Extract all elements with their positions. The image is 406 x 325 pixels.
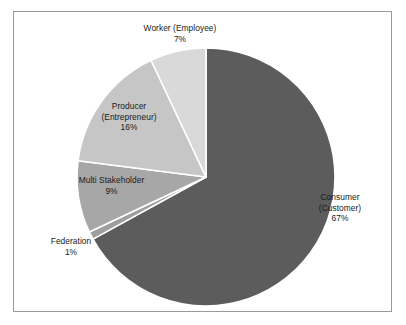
- pie-label-worker-name: Worker (Employee): [115, 23, 245, 34]
- pie-label-multi-stakeholder: Multi Stakeholder 9%: [54, 175, 169, 196]
- pie-chart-svg: [14, 12, 393, 313]
- pie-label-producer: Producer (Entrepreneur) 16%: [74, 101, 184, 133]
- pie-label-federation-percent: 1%: [26, 247, 116, 258]
- pie-label-producer-percent: 16%: [74, 122, 184, 133]
- pie-label-producer-name: Producer: [74, 101, 184, 112]
- pie-label-worker-percent: 7%: [115, 34, 245, 45]
- chart-frame: Worker (Employee) 7% Producer (Entrepren…: [13, 11, 392, 312]
- pie-label-consumer-name-alt: (Customer): [290, 203, 390, 214]
- pie-label-producer-name-alt: (Entrepreneur): [74, 112, 184, 123]
- pie-label-multi-stakeholder-name: Multi Stakeholder: [54, 175, 169, 186]
- pie-label-worker: Worker (Employee) 7%: [115, 23, 245, 44]
- pie-label-consumer-name: Consumer: [290, 192, 390, 203]
- pie-label-consumer: Consumer (Customer) 67%: [290, 192, 390, 224]
- clipped-top-text-row: [0, 0, 406, 7]
- pie-label-multi-stakeholder-percent: 9%: [54, 186, 169, 197]
- pie-label-federation: Federation 1%: [26, 236, 116, 257]
- pie-chart-plot-area: Worker (Employee) 7% Producer (Entrepren…: [14, 12, 393, 313]
- pie-label-federation-name: Federation: [26, 236, 116, 247]
- pie-label-consumer-percent: 67%: [290, 213, 390, 224]
- screenshot-root: Worker (Employee) 7% Producer (Entrepren…: [0, 0, 406, 325]
